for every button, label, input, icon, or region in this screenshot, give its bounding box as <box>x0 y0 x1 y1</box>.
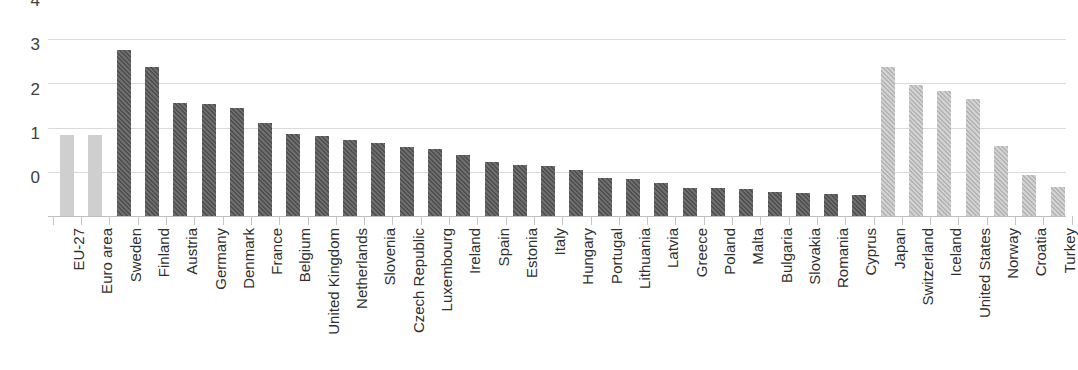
bar <box>739 189 753 216</box>
bar <box>258 123 272 216</box>
x-axis-category-label: Slovenia <box>383 228 397 286</box>
x-axis-tick <box>902 216 903 225</box>
bar <box>60 135 74 216</box>
x-axis-category-label: EU-27 <box>72 228 86 271</box>
x-axis-category-label: Bulgaria <box>780 228 794 283</box>
x-axis-tick <box>845 216 846 225</box>
x-axis-category-label: Germany <box>214 228 228 290</box>
y-axis-tick-label: 2 <box>10 80 40 97</box>
x-axis-tick <box>109 216 110 225</box>
x-axis-tick <box>194 216 195 225</box>
x-axis-category-labels: EU-27Euro areaSwedenFinlandAustriaGerman… <box>48 228 1066 363</box>
x-axis-tick <box>336 216 337 225</box>
x-axis-category-label: Cyprus <box>864 228 878 276</box>
bar <box>654 183 668 216</box>
x-axis-tick <box>223 216 224 225</box>
x-axis-category-label: Hungary <box>581 228 595 285</box>
bar <box>569 170 583 216</box>
x-axis-tick <box>1015 216 1016 225</box>
bar <box>315 136 329 216</box>
bar <box>456 155 470 216</box>
x-axis-tick <box>421 216 422 225</box>
x-axis-category-label: Portugal <box>610 228 624 284</box>
x-axis-category-label: Turkey <box>1063 228 1077 273</box>
x-axis-tick <box>591 216 592 225</box>
x-axis-tick <box>392 216 393 225</box>
bar-series <box>48 39 1066 216</box>
x-axis-category-label: Greece <box>695 228 709 277</box>
bar <box>145 67 159 216</box>
x-axis-category-label: Netherlands <box>355 228 369 309</box>
x-axis-category-label: Estonia <box>525 228 539 278</box>
bar <box>400 147 414 216</box>
x-axis-category-label: Switzerland <box>921 228 935 306</box>
bar <box>1051 187 1065 216</box>
x-axis-category-label: Slovakia <box>808 228 822 285</box>
bar <box>796 193 810 216</box>
x-axis-tick <box>166 216 167 225</box>
bar <box>202 104 216 216</box>
bar <box>173 103 187 216</box>
bar <box>852 195 866 216</box>
bar <box>881 67 895 216</box>
x-axis-category-label: Spain <box>497 228 511 266</box>
bar <box>117 50 131 216</box>
y-axis-labels: 01234 <box>0 0 40 370</box>
x-axis-category-label: Lithuania <box>638 228 652 289</box>
x-axis-category-label: Latvia <box>666 228 680 268</box>
x-axis-tick <box>817 216 818 225</box>
x-axis-tick <box>534 216 535 225</box>
bar <box>937 91 951 216</box>
x-axis-tick <box>562 216 563 225</box>
x-axis-tick <box>675 216 676 225</box>
y-axis-tick-label: 0 <box>10 169 40 186</box>
x-axis-category-label: Belgium <box>298 228 312 282</box>
y-axis-tick-label: 3 <box>10 36 40 53</box>
x-axis-category-label: Czech Republic <box>412 228 426 333</box>
x-axis-category-label: Italy <box>553 228 567 256</box>
x-axis-tick <box>732 216 733 225</box>
x-axis-tick <box>279 216 280 225</box>
bar <box>626 179 640 216</box>
x-axis-category-label: Ireland <box>468 228 482 274</box>
bar <box>286 134 300 216</box>
x-axis-tick <box>449 216 450 225</box>
x-axis-ticks <box>48 216 1066 225</box>
bar <box>598 178 612 216</box>
x-axis-category-label: Sweden <box>129 228 143 282</box>
bar <box>343 140 357 216</box>
bar <box>711 188 725 216</box>
x-axis-category-label: Malta <box>751 228 765 265</box>
bar <box>230 108 244 216</box>
x-axis-category-label: Euro area <box>100 228 114 294</box>
x-axis-category-label: Iceland <box>949 228 963 276</box>
x-axis-tick <box>308 216 309 225</box>
bar <box>513 165 527 216</box>
x-axis-tick <box>958 216 959 225</box>
bar <box>994 146 1008 216</box>
y-axis-tick-label: 4 <box>10 0 40 9</box>
bar <box>428 149 442 216</box>
bar <box>485 162 499 216</box>
x-axis-category-label: Romania <box>836 228 850 288</box>
x-axis-tick <box>1043 216 1044 225</box>
x-axis-tick <box>506 216 507 225</box>
plot-area <box>48 39 1066 216</box>
x-axis-category-label: Croatia <box>1034 228 1048 276</box>
bar <box>683 188 697 216</box>
bar <box>909 85 923 216</box>
bar <box>1022 175 1036 216</box>
x-axis-tick <box>477 216 478 225</box>
x-axis-tick <box>930 216 931 225</box>
x-axis-tick <box>364 216 365 225</box>
bar-chart: 01234 EU-27Euro areaSwedenFinlandAustria… <box>0 0 1078 370</box>
bar <box>824 194 838 216</box>
x-axis-category-label: Norway <box>1006 228 1020 279</box>
x-axis-category-label: Austria <box>185 228 199 275</box>
x-axis-category-label: France <box>270 228 284 275</box>
x-axis-tick <box>251 216 252 225</box>
x-axis-tick <box>704 216 705 225</box>
x-axis-category-label: Japan <box>893 228 907 269</box>
x-axis-tick <box>53 216 54 225</box>
x-axis-category-label: Poland <box>723 228 737 275</box>
